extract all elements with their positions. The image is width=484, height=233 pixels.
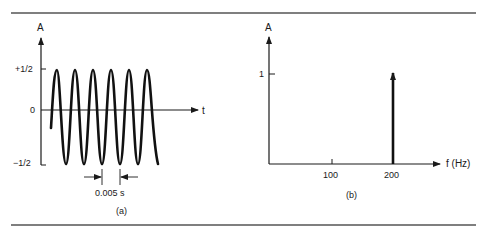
panel-b-tick-label-100: 100 <box>323 170 338 180</box>
panel-a-time-domain <box>41 38 198 185</box>
period-annotation: 0.005 s <box>95 188 125 198</box>
sine-waveform <box>51 70 158 164</box>
panel-b-y-label: A <box>265 23 272 33</box>
panel-a-tick-label-plus-half: +1/2 <box>15 64 33 74</box>
panel-a-caption: (a) <box>116 206 127 216</box>
panel-a-tick-label-minus-half: −1/2 <box>13 158 31 168</box>
panel-b-tick-label-one: 1 <box>259 69 264 79</box>
panel-a-y-label: A <box>37 23 44 33</box>
panel-b-tick-label-200: 200 <box>384 170 399 180</box>
panel-a-x-label: t <box>202 106 205 116</box>
panel-a-tick-label-zero: 0 <box>30 105 35 115</box>
figure-canvas <box>0 0 484 233</box>
panel-b-x-label: f (Hz) <box>446 159 470 169</box>
panel-b-frequency-domain <box>269 37 440 164</box>
panel-b-caption: (b) <box>346 190 357 200</box>
